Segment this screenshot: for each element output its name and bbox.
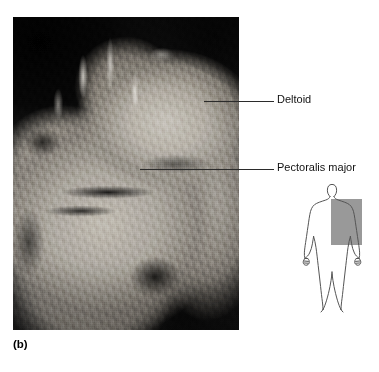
figure-caption: (b) xyxy=(13,338,28,350)
leader-line-deltoid xyxy=(204,101,274,102)
label-deltoid: Deltoid xyxy=(277,93,311,106)
cadaver-dissection-photo xyxy=(13,17,239,330)
body-orientation-diagram xyxy=(288,180,376,318)
figure-panel: Deltoid Pectoralis major (b) xyxy=(0,0,379,372)
leader-line-pectoralis-major xyxy=(140,169,274,170)
label-pectoralis-major: Pectoralis major xyxy=(277,161,356,174)
photo-vignette xyxy=(13,17,239,330)
